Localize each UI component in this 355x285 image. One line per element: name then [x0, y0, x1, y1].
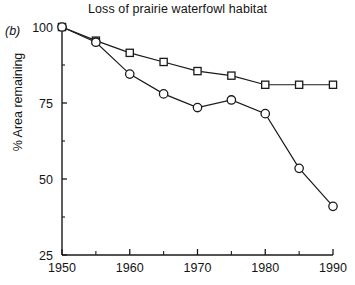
data-point-circle	[58, 23, 66, 31]
data-point-circle	[261, 109, 269, 117]
y-tick-marks	[62, 27, 67, 255]
series-lines	[62, 27, 333, 206]
plot-area: 255075100 19501960197019801990	[0, 0, 355, 285]
x-tick-label: 1960	[116, 261, 144, 275]
series-line-upper	[62, 27, 333, 85]
x-tick-marks	[62, 249, 333, 255]
y-tick-label: 50	[39, 173, 53, 187]
data-point-square	[126, 49, 133, 56]
y-tick-label: 75	[39, 97, 53, 111]
x-tick-labels: 19501960197019801990	[48, 261, 347, 275]
data-point-square	[160, 58, 167, 65]
series-line-lower	[62, 27, 333, 206]
x-tick-label: 1950	[48, 261, 76, 275]
data-point-circle	[126, 70, 134, 78]
data-point-circle	[295, 164, 303, 172]
x-tick-label: 1980	[251, 261, 279, 275]
data-point-circle	[92, 38, 100, 46]
x-tick-label: 1970	[184, 261, 212, 275]
data-point-square	[262, 81, 269, 88]
data-point-circle	[227, 96, 235, 104]
axis-lines	[62, 27, 333, 255]
data-point-square	[228, 72, 235, 79]
data-point-circle	[193, 103, 201, 111]
chart-figure: Loss of prairie waterfowl habitat (b) % …	[0, 0, 355, 285]
data-point-square	[194, 67, 201, 74]
x-tick-label: 1990	[319, 261, 347, 275]
y-tick-label: 100	[32, 21, 53, 35]
data-point-square	[296, 81, 303, 88]
y-tick-labels: 255075100	[32, 21, 53, 263]
data-point-circle	[159, 90, 167, 98]
series-markers	[58, 23, 337, 211]
data-point-circle	[329, 202, 337, 210]
data-point-square	[329, 81, 336, 88]
